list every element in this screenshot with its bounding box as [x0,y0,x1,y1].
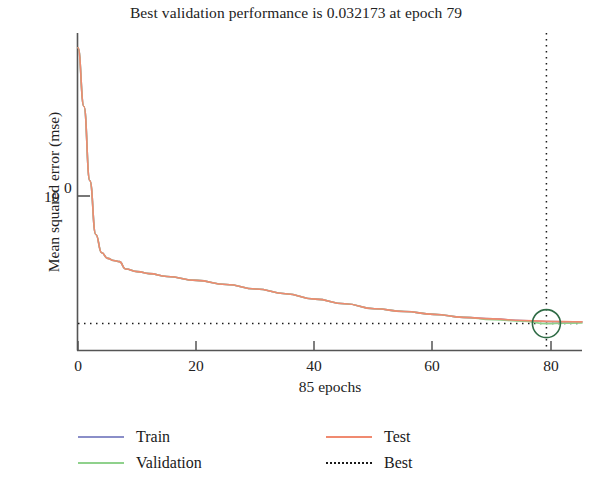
legend-item-best[interactable]: Best [326,450,574,476]
x-axis-title: 85 epochs [78,378,582,396]
legend-item-test[interactable]: Test [326,424,574,450]
series-group [78,48,582,324]
y-tick-mantissa: 10 [44,188,60,205]
x-tick-label-20: 20 [188,357,204,374]
plot-canvas: 10 0 0 20 40 60 80 [0,0,592,479]
x-tick-label-80: 80 [543,357,559,374]
series-line-test [78,48,582,322]
series-line-validation [78,48,582,324]
legend-swatch-validation-icon [78,462,124,464]
legend-swatch-test-icon [326,436,372,438]
x-tick-marks [78,341,551,350]
series-line-train [78,48,582,322]
legend-item-validation[interactable]: Validation [78,450,326,476]
legend-label-best: Best [384,455,412,471]
legend-label-test: Test [384,429,410,445]
legend-swatch-train-icon [78,436,124,438]
y-tick-exponent: 0 [64,179,72,196]
x-tick-label-40: 40 [306,357,322,374]
y-tick-label-1: 10 0 [44,179,72,205]
legend-swatch-best-icon [326,462,372,464]
legend-label-validation: Validation [136,455,202,471]
legend-label-train: Train [136,429,170,445]
x-tick-label-60: 60 [424,357,440,374]
performance-plot-figure: Best validation performance is 0.032173 … [0,0,592,479]
legend: Train Test Validation Best [78,424,548,476]
x-tick-label-0: 0 [74,357,82,374]
legend-item-train[interactable]: Train [78,424,326,450]
